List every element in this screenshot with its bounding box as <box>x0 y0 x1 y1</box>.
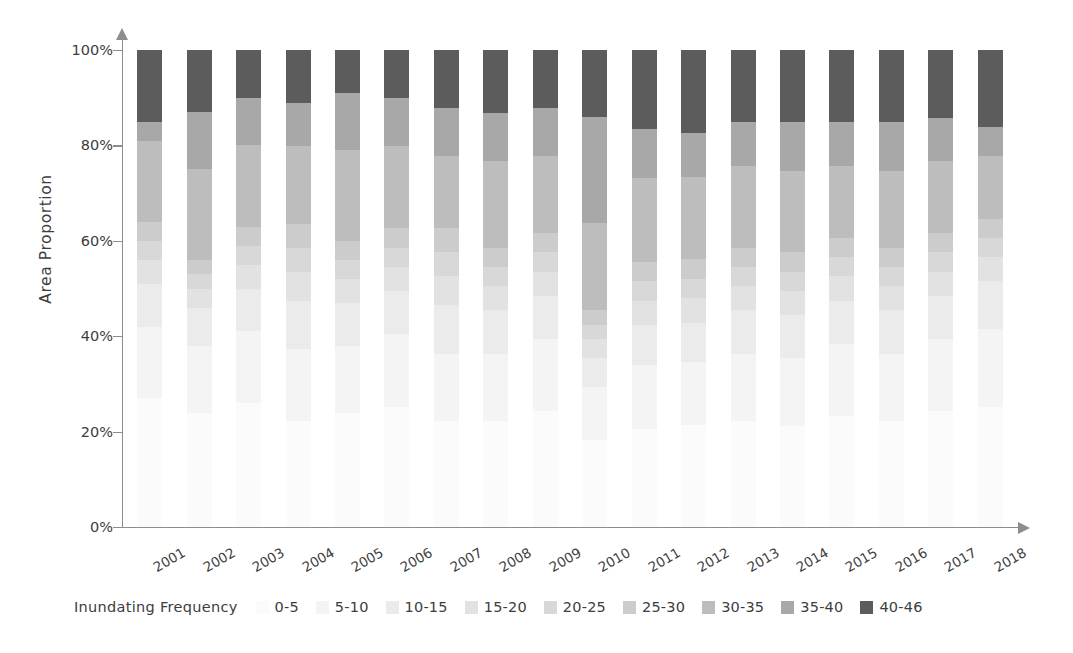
bar-segment[interactable] <box>483 310 508 353</box>
bar-segment[interactable] <box>978 238 1003 257</box>
bar-segment[interactable] <box>533 272 558 296</box>
bar-segment[interactable] <box>335 50 360 93</box>
bar-segment[interactable] <box>187 169 212 260</box>
stacked-bar[interactable] <box>780 50 805 527</box>
bar-segment[interactable] <box>236 98 261 146</box>
bar-segment[interactable] <box>434 50 459 108</box>
bar-segment[interactable] <box>829 166 854 238</box>
bar-segment[interactable] <box>236 289 261 332</box>
stacked-bar[interactable] <box>286 50 311 527</box>
bar-segment[interactable] <box>780 315 805 358</box>
bar-segment[interactable] <box>236 145 261 226</box>
bar-segment[interactable] <box>928 233 953 252</box>
bar-segment[interactable] <box>582 440 607 527</box>
bar-segment[interactable] <box>236 50 261 98</box>
bar-segment[interactable] <box>335 413 360 527</box>
bar-segment[interactable] <box>483 421 508 527</box>
bar-segment[interactable] <box>829 301 854 344</box>
bar-segment[interactable] <box>286 301 311 349</box>
bar-segment[interactable] <box>286 349 311 421</box>
bar-segment[interactable] <box>286 146 311 223</box>
bar-segment[interactable] <box>681 323 706 362</box>
bar-column[interactable] <box>533 50 558 527</box>
bar-segment[interactable] <box>187 260 212 274</box>
bar-segment[interactable] <box>632 178 657 262</box>
bar-segment[interactable] <box>236 331 261 403</box>
stacked-bar[interactable] <box>533 50 558 527</box>
bar-segment[interactable] <box>286 103 311 146</box>
bar-column[interactable] <box>681 50 706 527</box>
bar-segment[interactable] <box>582 223 607 310</box>
bar-segment[interactable] <box>335 241 360 260</box>
bar-segment[interactable] <box>434 354 459 421</box>
bar-segment[interactable] <box>483 267 508 286</box>
bar-segment[interactable] <box>187 50 212 112</box>
bar-segment[interactable] <box>384 98 409 146</box>
bar-segment[interactable] <box>632 281 657 301</box>
bar-segment[interactable] <box>384 267 409 291</box>
bar-segment[interactable] <box>928 118 953 161</box>
bar-segment[interactable] <box>533 108 558 156</box>
bar-column[interactable] <box>286 50 311 527</box>
bar-segment[interactable] <box>731 50 756 122</box>
legend-item[interactable]: 30-35 <box>702 599 764 615</box>
bar-segment[interactable] <box>137 50 162 122</box>
bar-segment[interactable] <box>632 50 657 129</box>
bar-segment[interactable] <box>928 272 953 296</box>
bar-segment[interactable] <box>533 156 558 233</box>
bar-segment[interactable] <box>978 281 1003 329</box>
bar-segment[interactable] <box>434 228 459 252</box>
bar-segment[interactable] <box>384 291 409 334</box>
bar-segment[interactable] <box>483 161 508 248</box>
bar-segment[interactable] <box>829 122 854 165</box>
bar-segment[interactable] <box>928 411 953 527</box>
stacked-bar[interactable] <box>681 50 706 527</box>
bar-segment[interactable] <box>533 411 558 527</box>
bar-segment[interactable] <box>582 325 607 339</box>
bar-segment[interactable] <box>582 339 607 358</box>
stacked-bar[interactable] <box>483 50 508 527</box>
bar-segment[interactable] <box>483 354 508 421</box>
bar-segment[interactable] <box>384 146 409 228</box>
bar-segment[interactable] <box>879 421 904 527</box>
bar-segment[interactable] <box>533 339 558 411</box>
bar-column[interactable] <box>384 50 409 527</box>
bar-column[interactable] <box>632 50 657 527</box>
bar-segment[interactable] <box>236 227 261 246</box>
bar-segment[interactable] <box>632 325 657 364</box>
bar-segment[interactable] <box>731 122 756 165</box>
bar-segment[interactable] <box>137 122 162 141</box>
bar-segment[interactable] <box>829 344 854 416</box>
bar-segment[interactable] <box>286 224 311 248</box>
stacked-bar[interactable] <box>582 50 607 527</box>
bar-column[interactable] <box>582 50 607 527</box>
bar-segment[interactable] <box>582 50 607 117</box>
bar-segment[interactable] <box>187 289 212 308</box>
bar-segment[interactable] <box>928 252 953 271</box>
bar-segment[interactable] <box>384 248 409 267</box>
bar-segment[interactable] <box>187 308 212 346</box>
bar-segment[interactable] <box>236 246 261 265</box>
stacked-bar[interactable] <box>434 50 459 527</box>
bar-segment[interactable] <box>236 403 261 527</box>
bar-segment[interactable] <box>780 291 805 315</box>
bar-segment[interactable] <box>533 233 558 252</box>
bar-segment[interactable] <box>731 310 756 353</box>
stacked-bar[interactable] <box>731 50 756 527</box>
bar-segment[interactable] <box>483 113 508 161</box>
legend-item[interactable]: 15-20 <box>465 599 527 615</box>
bar-segment[interactable] <box>632 301 657 326</box>
bar-column[interactable] <box>335 50 360 527</box>
bar-column[interactable] <box>187 50 212 527</box>
bar-segment[interactable] <box>187 112 212 169</box>
bar-segment[interactable] <box>879 248 904 267</box>
bar-segment[interactable] <box>978 156 1003 219</box>
stacked-bar[interactable] <box>335 50 360 527</box>
bar-column[interactable] <box>137 50 162 527</box>
stacked-bar[interactable] <box>137 50 162 527</box>
bar-segment[interactable] <box>286 421 311 527</box>
bar-segment[interactable] <box>582 117 607 223</box>
bar-segment[interactable] <box>286 272 311 301</box>
bar-segment[interactable] <box>780 426 805 527</box>
bar-segment[interactable] <box>187 274 212 288</box>
